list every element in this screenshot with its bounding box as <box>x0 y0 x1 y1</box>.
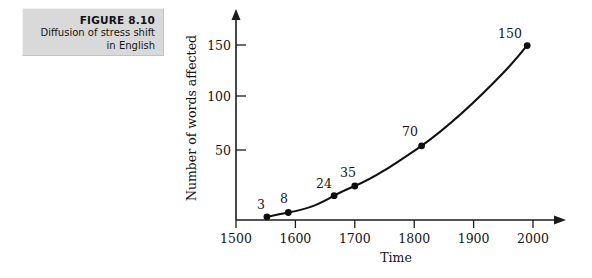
x-axis-tick-labels: 1500 1600 1700 1800 1900 2000 <box>220 231 549 246</box>
y-axis-title: Number of words affected <box>184 35 199 201</box>
y-axis-arrowhead <box>232 9 241 20</box>
data-point-1665 <box>331 192 338 199</box>
x-tick-label-1800: 1800 <box>398 231 430 246</box>
x-tick-label-2000: 2000 <box>517 231 549 246</box>
y-tick-label-100: 100 <box>207 89 231 104</box>
data-point-1552 <box>264 213 271 220</box>
x-axis-ticks <box>236 220 533 228</box>
y-axis-tick-labels: 150 100 50 <box>207 38 231 158</box>
data-curve <box>267 46 527 217</box>
x-tick-label-1500: 1500 <box>220 231 252 246</box>
line-chart: 150 100 50 1500 1600 1700 1800 1900 2000 <box>0 0 592 278</box>
data-point-1955 <box>524 42 531 49</box>
data-label-24: 24 <box>316 176 332 191</box>
data-point-1700 <box>351 183 358 190</box>
x-tick-label-1900: 1900 <box>458 231 490 246</box>
y-tick-label-50: 50 <box>215 143 231 158</box>
y-tick-label-150: 150 <box>207 38 231 53</box>
y-axis-ticks <box>236 45 246 150</box>
x-tick-label-1600: 1600 <box>279 231 311 246</box>
data-label-3: 3 <box>257 197 265 212</box>
data-label-35: 35 <box>340 165 356 180</box>
data-points <box>264 42 531 220</box>
figure-container: FIGURE 8.10 Diffusion of stress shift in… <box>0 0 592 278</box>
data-point-1588 <box>285 209 292 216</box>
data-label-70: 70 <box>402 124 418 139</box>
data-label-150: 150 <box>498 26 522 41</box>
x-tick-label-1700: 1700 <box>339 231 371 246</box>
data-label-8: 8 <box>280 191 288 206</box>
x-axis-arrowhead <box>554 216 566 225</box>
data-point-labels: 3 8 24 35 70 150 <box>257 26 522 212</box>
x-axis-title: Time <box>380 250 412 265</box>
data-point-1812 <box>418 142 425 149</box>
